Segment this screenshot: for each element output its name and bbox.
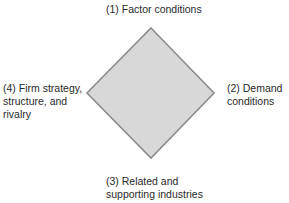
label-line: (4) Firm strategy, bbox=[3, 82, 82, 95]
label-line: (1) Factor conditions bbox=[106, 3, 202, 16]
label-line: rivalry bbox=[3, 108, 82, 121]
label-firm-strategy: (4) Firm strategy, structure, and rivalr… bbox=[3, 82, 82, 121]
label-line: supporting industries bbox=[106, 188, 203, 201]
label-line: (2) Demand bbox=[227, 82, 282, 95]
label-related-supporting-industries: (3) Related and supporting industries bbox=[106, 175, 203, 201]
label-demand-conditions: (2) Demand conditions bbox=[227, 82, 282, 108]
label-line: structure, and bbox=[3, 95, 82, 108]
diamond-shape bbox=[87, 28, 214, 158]
label-line: conditions bbox=[227, 95, 282, 108]
label-factor-conditions: (1) Factor conditions bbox=[106, 3, 202, 16]
label-line: (3) Related and bbox=[106, 175, 203, 188]
